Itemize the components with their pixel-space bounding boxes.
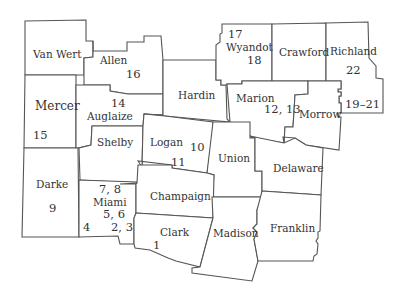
label-delaware: Delaware: [273, 162, 324, 174]
number-mercer: 15: [33, 128, 48, 142]
county-map: Van Wert Allen 16 Mercer 15 14 Auglaize …: [0, 0, 406, 303]
label-richland: Richland: [330, 45, 377, 57]
number-auglaize: 14: [111, 96, 126, 110]
number-allen: 16: [126, 67, 141, 81]
county-clark[interactable]: [134, 213, 213, 267]
number-clark: 1: [153, 238, 160, 252]
label-morrow: Morrow: [299, 108, 341, 120]
label-wyandot: Wyandot: [226, 41, 274, 53]
number-miami-2-3: 2, 3: [111, 220, 133, 234]
number-miami-5-6: 5, 6: [103, 207, 125, 221]
number-wyandot-17: 17: [228, 27, 243, 41]
county-darke[interactable]: [22, 148, 79, 237]
label-hardin: Hardin: [178, 89, 216, 101]
number-logan-11: 11: [171, 155, 186, 169]
label-allen: Allen: [99, 54, 128, 66]
number-wyandot-18: 18: [247, 53, 262, 67]
county-wyandot[interactable]: [216, 24, 272, 85]
label-madison: Madison: [213, 227, 259, 239]
number-marion: 12, 13: [264, 102, 301, 116]
number-miami-4: 4: [83, 220, 90, 234]
label-franklin: Franklin: [270, 222, 315, 234]
number-richland-19-21: 19–21: [345, 97, 380, 111]
label-champaign: Champaign: [150, 190, 211, 202]
label-clark: Clark: [160, 226, 190, 238]
label-auglaize: Auglaize: [86, 110, 133, 122]
label-union: Union: [218, 152, 250, 164]
number-richland-22: 22: [346, 63, 361, 77]
label-mercer: Mercer: [35, 99, 80, 113]
label-crawford: Crawford: [279, 46, 330, 58]
number-darke: 9: [49, 201, 56, 215]
number-miami-7-8: 7, 8: [99, 182, 121, 196]
label-shelby: Shelby: [97, 136, 133, 148]
label-van-wert: Van Wert: [32, 48, 82, 60]
number-logan-10: 10: [190, 140, 205, 154]
label-logan: Logan: [150, 136, 183, 148]
label-darke: Darke: [36, 178, 68, 190]
